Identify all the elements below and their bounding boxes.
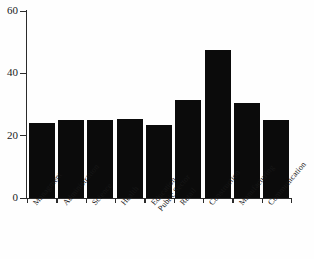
bars-layer bbox=[27, 11, 291, 198]
y-tick-label: 20 bbox=[0, 130, 18, 141]
bar bbox=[117, 119, 143, 198]
bar-chart: 0204060 ManagmentAdministrationScienceHe… bbox=[0, 0, 314, 259]
y-tick-label: 60 bbox=[0, 5, 18, 16]
x-axis-labels: ManagmentAdministrationScienceHealthEduc… bbox=[0, 198, 314, 259]
y-tick-label: 40 bbox=[0, 67, 18, 78]
y-tick-mark bbox=[20, 73, 27, 74]
y-tick-mark bbox=[20, 11, 27, 12]
bar bbox=[205, 50, 231, 198]
y-tick-mark bbox=[20, 135, 27, 136]
